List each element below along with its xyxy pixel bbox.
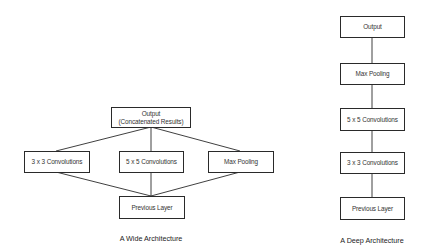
- wide-max-pooling-label: Max Pooling: [224, 158, 258, 166]
- deep-output-node: Output: [340, 16, 405, 38]
- wide-previous-layer-node: Previous Layer: [119, 196, 185, 219]
- deep-previous-layer-node: Previous Layer: [340, 197, 405, 220]
- wide-5x5-conv-label: 5 x 5 Convolutions: [126, 158, 177, 166]
- deep-max-pooling-node: Max Pooling: [340, 63, 405, 85]
- wide-output-label: Output: [142, 110, 161, 118]
- deep-5x5-conv-label: 5 x 5 Convolutions: [347, 116, 398, 124]
- deep-previous-layer-label: Previous Layer: [352, 205, 393, 213]
- deep-output-label: Output: [363, 23, 382, 31]
- wide-5x5-conv-node: 5 x 5 Convolutions: [119, 151, 184, 173]
- wide-previous-layer-label: Previous Layer: [131, 204, 172, 212]
- deep-caption: A Deep Architecture: [322, 236, 422, 245]
- wide-output-node: Output (Concatenated Results): [111, 107, 191, 128]
- deep-max-pooling-label: Max Pooling: [355, 70, 389, 78]
- deep-3x3-conv-node: 3 x 3 Convolutions: [340, 152, 405, 174]
- wide-max-pooling-node: Max Pooling: [208, 151, 274, 173]
- deep-3x3-conv-label: 3 x 3 Convolutions: [347, 159, 398, 167]
- wide-3x3-conv-node: 3 x 3 Convolutions: [24, 151, 90, 173]
- wide-output-sublabel: (Concatenated Results): [119, 118, 184, 126]
- wide-caption: A Wide Architecture: [101, 234, 201, 243]
- deep-5x5-conv-node: 5 x 5 Convolutions: [340, 108, 405, 131]
- wide-3x3-conv-label: 3 x 3 Convolutions: [32, 158, 83, 166]
